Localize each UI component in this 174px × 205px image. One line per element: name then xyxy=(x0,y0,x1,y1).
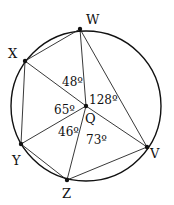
point-q xyxy=(84,104,88,108)
label-x: X xyxy=(8,46,18,61)
point-y xyxy=(19,142,23,146)
angle-48: 48º xyxy=(62,75,83,89)
angle-128: 128º xyxy=(89,93,118,107)
label-q: Q xyxy=(85,111,96,126)
circle-diagram: W X Y Z V Q 48º 128º 65º 46º 73º xyxy=(0,0,174,205)
point-z xyxy=(65,178,69,182)
angle-46: 46º xyxy=(58,125,79,139)
point-v xyxy=(145,145,149,149)
radii xyxy=(21,29,147,180)
label-w: W xyxy=(86,12,100,27)
label-z: Z xyxy=(62,186,71,201)
angle-65: 65º xyxy=(54,103,75,117)
label-y: Y xyxy=(11,153,21,168)
angle-73: 73º xyxy=(86,133,107,147)
point-x xyxy=(23,59,27,63)
point-w xyxy=(78,27,82,31)
label-v: V xyxy=(149,146,160,161)
